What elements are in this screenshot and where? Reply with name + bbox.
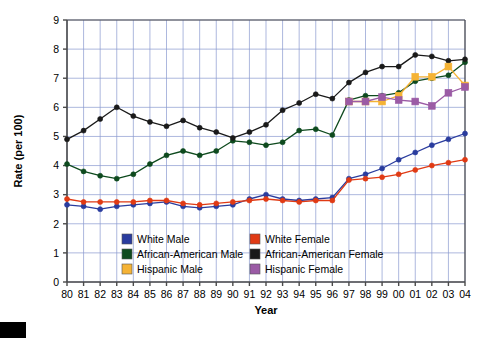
x-axis-ticks: 8081828384858687888990919293949596979899… xyxy=(61,282,471,300)
data-point xyxy=(313,92,318,97)
data-point xyxy=(131,114,136,119)
data-point xyxy=(380,64,385,69)
legend-item-hispanic-female[interactable]: Hispanic Female xyxy=(250,263,343,275)
data-point xyxy=(114,176,119,181)
data-point xyxy=(197,125,202,130)
data-point xyxy=(214,130,219,135)
x-tick-label: 02 xyxy=(426,288,438,300)
data-point xyxy=(446,160,451,165)
data-point xyxy=(164,198,169,203)
data-point xyxy=(280,198,285,203)
rate-by-race-sex-line-chart: 0123456789808182838485868788899091929394… xyxy=(0,0,491,338)
x-tick-label: 96 xyxy=(326,288,338,300)
legend: White MaleWhite FemaleAfrican-American M… xyxy=(122,233,384,275)
x-tick-label: 00 xyxy=(393,288,405,300)
y-tick-label: 1 xyxy=(53,247,59,259)
legend-item-african-american-female[interactable]: African-American Female xyxy=(250,248,384,260)
x-tick-label: 82 xyxy=(94,288,106,300)
legend-item-hispanic-male[interactable]: Hispanic Male xyxy=(122,263,203,275)
data-point xyxy=(65,202,70,207)
data-point xyxy=(413,167,418,172)
data-series-group xyxy=(65,52,469,211)
legend-label: White Female xyxy=(265,233,330,245)
data-point xyxy=(330,96,335,101)
data-point xyxy=(380,166,385,171)
data-point xyxy=(363,93,368,98)
data-point xyxy=(147,162,152,167)
legend-item-white-female[interactable]: White Female xyxy=(250,233,330,245)
data-point xyxy=(396,64,401,69)
data-point xyxy=(147,119,152,124)
legend-label: Hispanic Male xyxy=(137,263,203,275)
x-axis-title: Year xyxy=(254,304,278,316)
data-point xyxy=(65,197,70,202)
data-point xyxy=(214,149,219,154)
data-point xyxy=(413,150,418,155)
legend-item-white-male[interactable]: White Male xyxy=(122,233,190,245)
data-point xyxy=(280,108,285,113)
x-tick-label: 87 xyxy=(177,288,189,300)
data-point xyxy=(81,128,86,133)
x-tick-label: 97 xyxy=(343,288,355,300)
legend-swatch xyxy=(250,264,260,274)
data-point xyxy=(462,84,469,91)
data-point xyxy=(313,198,318,203)
x-tick-label: 84 xyxy=(127,288,139,300)
x-tick-label: 98 xyxy=(360,288,372,300)
data-point xyxy=(81,169,86,174)
data-point xyxy=(247,140,252,145)
data-point xyxy=(65,137,70,142)
y-tick-label: 5 xyxy=(53,130,59,142)
data-point xyxy=(446,58,451,63)
data-point xyxy=(346,80,351,85)
data-point xyxy=(395,97,402,104)
legend-item-african-american-male[interactable]: African-American Male xyxy=(122,248,243,260)
data-point xyxy=(297,100,302,105)
x-tick-label: 93 xyxy=(277,288,289,300)
data-point xyxy=(264,122,269,127)
y-axis-ticks: 0123456789 xyxy=(53,14,67,288)
data-point xyxy=(428,102,435,109)
data-point xyxy=(463,57,468,62)
x-tick-label: 03 xyxy=(443,288,455,300)
data-point xyxy=(446,137,451,142)
data-point xyxy=(264,143,269,148)
x-tick-label: 95 xyxy=(310,288,322,300)
data-point xyxy=(346,98,353,105)
x-tick-label: 89 xyxy=(210,288,222,300)
legend-swatch xyxy=(250,249,260,259)
data-point xyxy=(280,140,285,145)
data-point xyxy=(379,94,386,101)
data-point xyxy=(98,199,103,204)
data-point xyxy=(230,135,235,140)
data-point xyxy=(428,73,435,80)
page-corner-marker xyxy=(0,322,26,338)
x-tick-label: 01 xyxy=(409,288,421,300)
data-point xyxy=(98,173,103,178)
data-point xyxy=(330,132,335,137)
data-point xyxy=(181,118,186,123)
data-point xyxy=(197,153,202,158)
legend-label: White Male xyxy=(137,233,190,245)
x-tick-label: 86 xyxy=(161,288,173,300)
data-point xyxy=(429,163,434,168)
data-point xyxy=(429,54,434,59)
data-point xyxy=(412,98,419,105)
y-axis-title: Rate (per 100) xyxy=(12,114,24,187)
x-tick-label: 99 xyxy=(376,288,388,300)
data-point xyxy=(98,207,103,212)
data-point xyxy=(131,199,136,204)
legend-swatch xyxy=(250,234,260,244)
y-tick-label: 6 xyxy=(53,101,59,113)
data-point xyxy=(197,202,202,207)
legend-label: African-American Female xyxy=(265,248,384,260)
data-point xyxy=(445,89,452,96)
y-tick-label: 4 xyxy=(53,159,59,171)
x-tick-label: 85 xyxy=(144,288,156,300)
data-point xyxy=(114,105,119,110)
x-tick-label: 92 xyxy=(260,288,272,300)
data-point xyxy=(65,162,70,167)
x-tick-label: 94 xyxy=(293,288,305,300)
y-tick-label: 3 xyxy=(53,188,59,200)
data-point xyxy=(164,124,169,129)
